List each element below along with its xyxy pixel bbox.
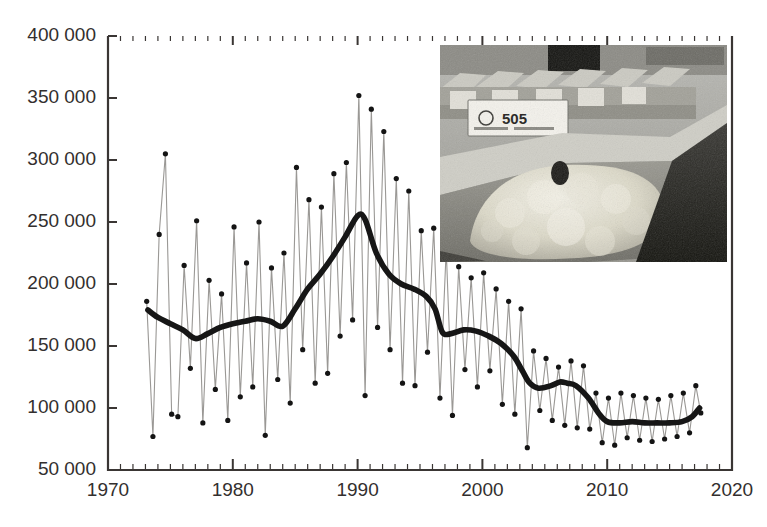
data-point [182, 263, 187, 268]
data-point [518, 306, 523, 311]
x-tick-label: 2020 [711, 479, 753, 500]
data-point [575, 425, 580, 430]
x-tick-label: 1980 [212, 479, 254, 500]
data-point [406, 188, 411, 193]
data-point [306, 197, 311, 202]
data-point [543, 356, 548, 361]
data-point [643, 395, 648, 400]
data-point [581, 363, 586, 368]
data-point [387, 347, 392, 352]
data-point [612, 443, 617, 448]
y-tick-label: 400 000 [27, 24, 96, 45]
data-point [375, 325, 380, 330]
data-point [668, 393, 673, 398]
data-point [175, 414, 180, 419]
data-point [419, 228, 424, 233]
data-point [244, 260, 249, 265]
data-point [269, 265, 274, 270]
data-point [618, 391, 623, 396]
data-point [600, 440, 605, 445]
data-point [294, 165, 299, 170]
data-point [381, 129, 386, 134]
data-point [356, 93, 361, 98]
data-point [494, 286, 499, 291]
data-point [456, 264, 461, 269]
data-point [481, 270, 486, 275]
data-point [206, 278, 211, 283]
data-point [531, 348, 536, 353]
data-point [550, 418, 555, 423]
x-tick-label: 1970 [87, 479, 129, 500]
y-tick-label: 300 000 [27, 148, 96, 169]
data-point [631, 393, 636, 398]
data-point [462, 367, 467, 372]
y-tick-label: 100 000 [27, 396, 96, 417]
data-point [469, 275, 474, 280]
data-point [369, 107, 374, 112]
data-point [344, 160, 349, 165]
x-tick-label: 2000 [461, 479, 503, 500]
data-point [163, 151, 168, 156]
data-point [681, 391, 686, 396]
data-point [674, 434, 679, 439]
data-point [250, 384, 255, 389]
data-point [656, 397, 661, 402]
data-point [506, 299, 511, 304]
data-point [263, 433, 268, 438]
data-point [662, 436, 667, 441]
data-point [188, 366, 193, 371]
data-point [288, 400, 293, 405]
wool-warehouse-photo: 505 [440, 45, 727, 262]
data-point [319, 205, 324, 210]
data-point [275, 377, 280, 382]
data-point [338, 333, 343, 338]
data-point [593, 391, 598, 396]
x-tick-label: 2010 [586, 479, 628, 500]
data-point [281, 250, 286, 255]
data-point [437, 395, 442, 400]
data-point [587, 426, 592, 431]
data-point [512, 412, 517, 417]
data-point [487, 368, 492, 373]
data-point [537, 408, 542, 413]
data-point [562, 423, 567, 428]
data-point [219, 291, 224, 296]
data-point [693, 383, 698, 388]
data-point [431, 226, 436, 231]
data-point [325, 371, 330, 376]
data-point [157, 232, 162, 237]
data-point [556, 364, 561, 369]
data-point [412, 383, 417, 388]
x-tick-label: 1990 [336, 479, 378, 500]
data-point [213, 387, 218, 392]
data-point [650, 439, 655, 444]
data-point [687, 430, 692, 435]
data-point [350, 317, 355, 322]
data-point [231, 224, 236, 229]
chart-figure: 50 000100 000150 000200 000250 000300 00… [0, 0, 767, 527]
y-tick-label: 250 000 [27, 210, 96, 231]
y-tick-label: 200 000 [27, 272, 96, 293]
photo-film-grain [440, 45, 727, 262]
data-point [568, 358, 573, 363]
photo-illustration: 505 [440, 45, 727, 262]
data-point [150, 434, 155, 439]
data-point [450, 413, 455, 418]
data-point [225, 418, 230, 423]
data-point [394, 176, 399, 181]
data-point [300, 347, 305, 352]
data-point [169, 412, 174, 417]
y-tick-label: 350 000 [27, 86, 96, 107]
data-point [475, 384, 480, 389]
data-point [400, 381, 405, 386]
data-point [144, 299, 149, 304]
y-tick-label: 150 000 [27, 334, 96, 355]
data-point [637, 438, 642, 443]
data-point [625, 435, 630, 440]
data-point [313, 381, 318, 386]
data-point [425, 350, 430, 355]
data-point [500, 402, 505, 407]
data-point [606, 395, 611, 400]
data-point [238, 394, 243, 399]
data-point [194, 218, 199, 223]
